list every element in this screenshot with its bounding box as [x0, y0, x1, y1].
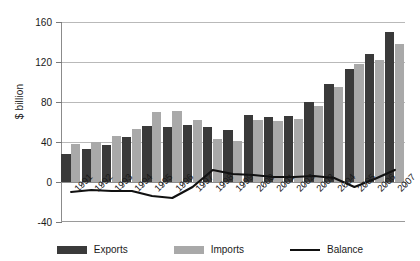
legend-swatch-exports-icon [57, 246, 87, 254]
bar-exports-2004 [324, 84, 333, 182]
y-tick-label-160: 160 [35, 17, 52, 28]
bar-imports-1993 [112, 136, 121, 182]
bar-exports-1991 [61, 154, 70, 182]
legend-item-exports[interactable]: Exports [57, 244, 128, 255]
bar-imports-1996 [172, 111, 181, 182]
bar-series-layer [61, 22, 405, 222]
y-tick-label--40: -40 [38, 217, 52, 228]
bar-imports-2006 [375, 60, 384, 182]
x-tick [61, 182, 62, 187]
chart-legend: ExportsImportsBalance [0, 244, 420, 255]
bar-imports-2002 [294, 119, 303, 182]
y-tick-label-120: 120 [35, 57, 52, 68]
bar-exports-2007 [385, 32, 394, 182]
legend-label: Balance [327, 244, 363, 255]
plot-area: -4004080120160 [61, 22, 405, 222]
y-tick-label-40: 40 [41, 137, 52, 148]
legend-swatch-balance-icon [290, 249, 320, 251]
bar-imports-1999 [233, 141, 242, 182]
bar-exports-2003 [304, 102, 313, 182]
legend-swatch-imports-icon [174, 246, 204, 254]
bar-exports-2005 [345, 69, 354, 182]
bar-exports-2006 [365, 54, 374, 182]
bar-imports-2003 [314, 106, 323, 182]
bar-imports-2007 [395, 44, 404, 182]
y-tick-label-80: 80 [41, 97, 52, 108]
bar-imports-1997 [193, 120, 202, 182]
bar-imports-1992 [91, 142, 100, 182]
y-tick--40 [56, 222, 62, 223]
bar-imports-1998 [213, 139, 222, 182]
bar-imports-2000 [253, 120, 262, 182]
bar-imports-2004 [334, 87, 343, 182]
bar-imports-2001 [273, 121, 282, 182]
bar-imports-1995 [152, 112, 161, 182]
y-tick-label-0: 0 [46, 177, 52, 188]
bar-imports-2005 [354, 64, 363, 182]
y-axis-title: $ billion [14, 57, 25, 147]
legend-label: Imports [211, 244, 244, 255]
bar-imports-1994 [132, 129, 141, 182]
legend-label: Exports [94, 244, 128, 255]
legend-item-imports[interactable]: Imports [174, 244, 244, 255]
bar-imports-1991 [71, 144, 80, 182]
legend-item-balance[interactable]: Balance [290, 244, 363, 255]
chart-container: $ billion -4004080120160 199119921993199… [0, 0, 420, 261]
